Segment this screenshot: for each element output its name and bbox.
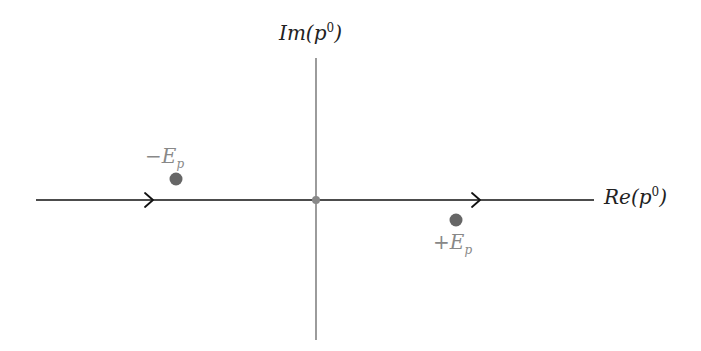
neg-pole-sign: − (145, 144, 162, 168)
pole-label-positive: +Ep (433, 232, 472, 256)
origin-point (312, 196, 320, 204)
re-label-base: Re(p (604, 185, 652, 209)
pole-positive-energy (450, 214, 463, 227)
pole-label-negative: −Ep (145, 146, 184, 170)
neg-pole-symbol: E (162, 144, 177, 168)
re-label-close: ) (659, 185, 667, 209)
im-label-sup: 0 (326, 21, 334, 35)
re-label-sup: 0 (652, 185, 660, 199)
complex-plane-diagram (0, 0, 701, 351)
imaginary-axis-label: Im(p0) (279, 22, 342, 43)
im-label-close: ) (334, 21, 342, 45)
pole-negative-energy (170, 173, 183, 186)
real-axis-label: Re(p0) (604, 186, 667, 207)
pos-pole-symbol: E (450, 230, 465, 254)
pos-pole-sub: p (464, 243, 472, 257)
neg-pole-sub: p (176, 157, 184, 171)
pos-pole-sign: + (433, 230, 450, 254)
im-label-base: Im(p (279, 21, 326, 45)
